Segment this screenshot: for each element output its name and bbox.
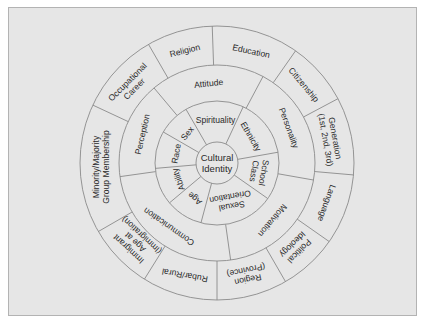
inner-ring-sector-label: Ethnicity: [238, 120, 263, 154]
middle-ring-sector-label: Perception: [133, 113, 152, 155]
outer-ring-divider: [212, 26, 213, 65]
outer-ring-sector-label: Education: [231, 42, 271, 60]
inner-ring-sector-label: Race: [169, 143, 182, 165]
outer-ring-sector-label: OccupationalCareer: [106, 61, 155, 110]
middle-ring-sector-label: Attitude: [194, 77, 224, 90]
inner-ring-divider: [155, 165, 196, 169]
cultural-identity-wheel: SpiritualityEthnicitySchoolClassSexualOr…: [0, 0, 423, 324]
center-label: CulturalIdentity: [201, 152, 234, 174]
inner-ring-sector-label: Sex: [179, 124, 197, 142]
outer-ring-divider: [315, 172, 354, 175]
middle-ring-divider: [226, 224, 231, 260]
outer-ring-sector-label: Citizenship: [287, 65, 322, 104]
inner-ring-sector-label: SexualOrientation: [208, 188, 253, 215]
middle-ring-sector-label: Motivation: [256, 202, 289, 239]
outer-ring-sector-label: Region(Province): [226, 261, 269, 288]
inner-ring-sector-label: Spirituality: [196, 115, 236, 125]
outer-ring-sector-label: Generation(1st, 2nd, 3rd): [316, 111, 345, 167]
middle-ring-sector-label: Personality: [277, 106, 301, 150]
inner-ring-sector-label: SchoolClass: [247, 157, 271, 186]
outer-ring-sector-label: Language: [316, 183, 339, 223]
outer-ring-sector-label: PoliticalIdeology: [277, 229, 314, 266]
outer-ring-sector-label: Rubar/Rural: [161, 267, 208, 285]
middle-ring-divider: [246, 76, 263, 108]
outer-ring-sector-label: Minority/MajorityGroup Membership: [91, 130, 111, 204]
middle-ring-divider: [120, 172, 156, 177]
middle-ring-divider: [278, 174, 313, 180]
middle-ring-divider: [154, 88, 177, 116]
outer-ring-sector-label: Religion: [169, 42, 202, 59]
inner-ring-sector-label: Ability: [169, 166, 186, 192]
outer-ring-divider: [93, 105, 128, 121]
inner-ring-divider: [238, 152, 278, 159]
outer-ring-divider: [149, 44, 169, 78]
inner-ring-sector-label: Age: [185, 190, 203, 208]
